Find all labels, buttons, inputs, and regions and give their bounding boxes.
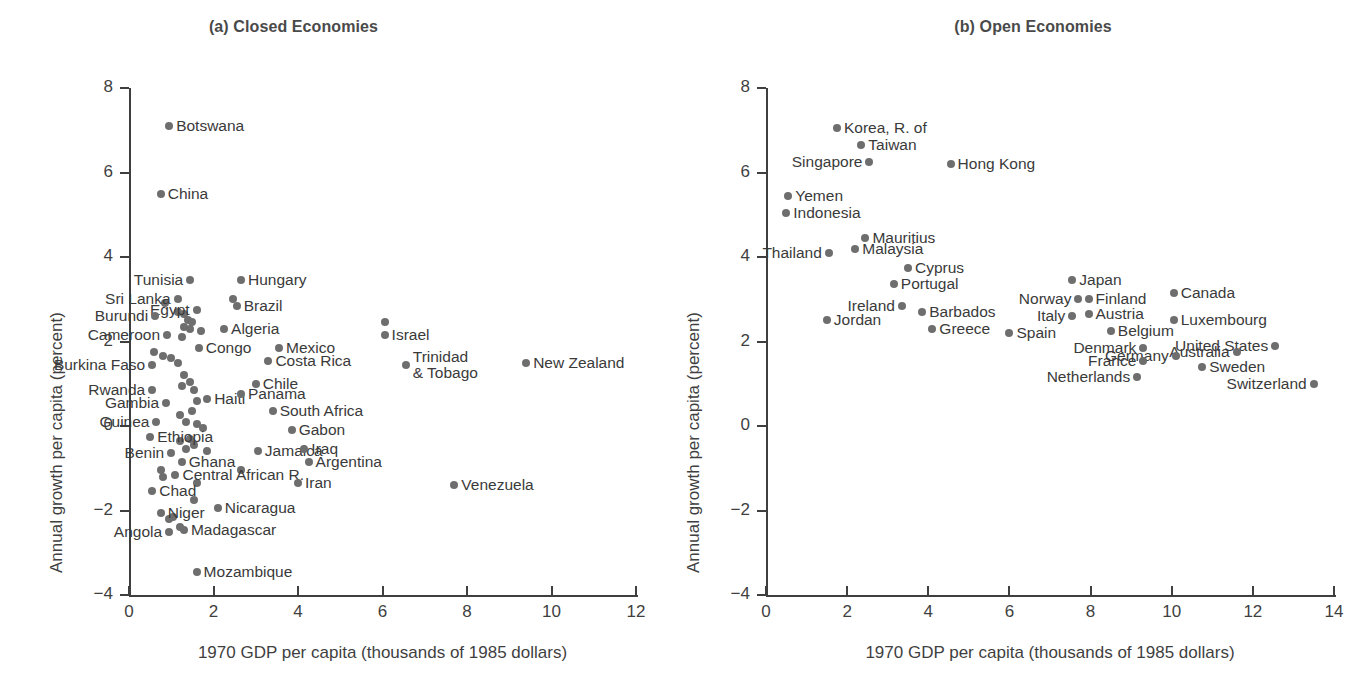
data-point xyxy=(1085,310,1093,318)
x-tick xyxy=(765,586,767,595)
data-point xyxy=(151,312,159,320)
data-point xyxy=(193,568,201,576)
data-point xyxy=(890,280,898,288)
y-tick-label: 8 xyxy=(704,77,750,97)
data-point-label: Hong Kong xyxy=(958,156,1036,172)
data-point-label: Luxembourg xyxy=(1181,312,1267,328)
data-point-label: Ethiopia xyxy=(157,429,213,445)
data-point-label: Netherlands xyxy=(1047,369,1131,385)
y-tick-label: 8 xyxy=(67,77,113,97)
x-tick-label: 10 xyxy=(527,602,577,622)
data-point xyxy=(264,357,272,365)
x-tick-label: 8 xyxy=(1066,602,1116,622)
data-point xyxy=(197,327,205,335)
data-point xyxy=(784,192,792,200)
data-point xyxy=(162,399,170,407)
chart-panel-closed-economies: (a) Closed Economies 86420−2−40246810121… xyxy=(0,0,683,699)
data-point-label: Brazil xyxy=(244,298,283,314)
data-point xyxy=(203,395,211,403)
data-point xyxy=(305,458,313,466)
y-tick-label: 6 xyxy=(67,162,113,182)
y-tick xyxy=(757,510,766,512)
y-axis-line xyxy=(766,88,768,595)
x-tick xyxy=(1090,586,1092,595)
x-tick-label: 10 xyxy=(1147,602,1197,622)
x-axis-line xyxy=(766,595,1336,597)
data-point-label: Gambia xyxy=(105,395,159,411)
data-point xyxy=(1107,327,1115,335)
data-point xyxy=(157,190,165,198)
x-axis-line xyxy=(129,595,638,597)
x-axis-title: 1970 GDP per capita (thousands of 1985 d… xyxy=(706,643,1367,663)
y-tick xyxy=(757,425,766,427)
data-point xyxy=(269,407,277,415)
y-tick-label: −4 xyxy=(704,584,750,604)
data-point xyxy=(165,122,173,130)
y-axis-title: Annual growth per capita (percent) xyxy=(47,312,67,573)
x-tick-label: 6 xyxy=(984,602,1034,622)
data-point xyxy=(152,418,160,426)
data-point xyxy=(1271,342,1279,350)
x-tick-label: 2 xyxy=(822,602,872,622)
data-point-label: Gabon xyxy=(299,422,346,438)
data-point xyxy=(195,344,203,352)
data-point-label: Thailand xyxy=(762,245,821,261)
data-point-label: Cyprus xyxy=(915,260,964,276)
data-point-label: Japan xyxy=(1079,272,1121,288)
y-tick xyxy=(120,172,129,174)
y-tick-label: 2 xyxy=(704,331,750,351)
data-point xyxy=(381,331,389,339)
x-tick xyxy=(213,586,215,595)
x-tick xyxy=(846,586,848,595)
data-point-label: Angola xyxy=(114,524,162,540)
data-point-label: Jordan xyxy=(834,312,881,328)
data-point-label: Mozambique xyxy=(204,564,293,580)
y-tick xyxy=(757,172,766,174)
data-point xyxy=(178,333,186,341)
data-point xyxy=(851,245,859,253)
data-point-label: Canada xyxy=(1181,285,1235,301)
data-point xyxy=(220,325,228,333)
data-point-label: South Africa xyxy=(280,403,364,419)
x-tick xyxy=(466,586,468,595)
data-point-label: Congo xyxy=(206,340,252,356)
data-point xyxy=(823,316,831,324)
y-tick xyxy=(120,256,129,258)
data-point-label: Madagascar xyxy=(191,522,276,538)
data-point xyxy=(918,308,926,316)
data-point xyxy=(898,302,906,310)
data-point xyxy=(157,509,165,517)
x-tick xyxy=(927,586,929,595)
data-point xyxy=(947,160,955,168)
data-point-label: Guinea xyxy=(99,414,149,430)
data-point xyxy=(825,249,833,257)
data-point-label: Barbados xyxy=(929,304,995,320)
plot-area-open-economies: 86420−2−4024681012141970 GDP per capita … xyxy=(683,0,1367,699)
data-point xyxy=(1198,363,1206,371)
data-point-label: Austria xyxy=(1096,306,1144,322)
x-tick xyxy=(1008,586,1010,595)
data-point-label: Spain xyxy=(1016,325,1056,341)
data-point-label: Korea, R. of xyxy=(844,120,927,136)
x-tick xyxy=(1171,586,1173,595)
data-point-label: Israel xyxy=(392,327,430,343)
data-point xyxy=(865,158,873,166)
x-tick xyxy=(297,586,299,595)
x-tick-label: 8 xyxy=(442,602,492,622)
data-point xyxy=(522,359,530,367)
data-point xyxy=(237,276,245,284)
data-point xyxy=(254,447,262,455)
data-point-label: Benin xyxy=(125,445,165,461)
data-point xyxy=(186,378,194,386)
data-point-label: Greece xyxy=(939,321,990,337)
y-axis-title: Annual growth per capita (percent) xyxy=(684,312,704,573)
x-tick xyxy=(635,586,637,595)
data-point xyxy=(193,397,201,405)
data-point xyxy=(1005,329,1013,337)
data-point-label: Burkina Faso xyxy=(54,357,145,373)
data-point xyxy=(148,487,156,495)
y-tick xyxy=(757,341,766,343)
data-point-label: Belgium xyxy=(1118,323,1174,339)
data-point xyxy=(186,276,194,284)
data-point-label: Argentina xyxy=(316,454,382,470)
